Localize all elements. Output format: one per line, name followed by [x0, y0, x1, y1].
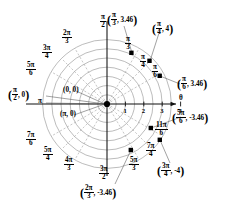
point-marker-origin[interactable]	[104, 101, 110, 107]
angle-label-5pi-over-3: 5π3	[129, 157, 139, 173]
angle-label-5pi-over-4: 5π4	[43, 147, 53, 163]
point-marker-pi-over-4[interactable]	[147, 59, 151, 63]
origin-label-zero: (0, 0)	[63, 87, 79, 94]
point-label-3pi-over-4: (3π4, -4)	[157, 163, 184, 179]
point-marker-2pi-over-3[interactable]	[129, 148, 133, 152]
theta-axis-arrowhead	[171, 102, 177, 106]
angle-label-7pi-over-4: 7π4	[146, 143, 156, 159]
angle-label-7pi-over-6: 7π6	[26, 132, 36, 148]
point-marker-pi-over-6[interactable]	[158, 74, 162, 78]
origin-label-pi: (π, 0)	[60, 111, 76, 118]
spoke-3pi-over-4	[62, 59, 108, 105]
angle-label-3pi-over-4: 3π4	[42, 45, 52, 61]
polar-chart: π2 2π3 3π4 5π6 π 7π6 5π4 4π3 3π2 5π3 7π4…	[0, 0, 225, 214]
angle-label-pi-over-4: π4	[140, 54, 146, 70]
angle-label-pi-over-6: π6	[152, 64, 158, 80]
point-label-5pi-over-6: (5π6, -3.46)	[172, 110, 208, 126]
radial-tick-label-1: 1	[123, 108, 126, 115]
radial-tick-label-3: 3	[160, 108, 163, 115]
point-label-pi-over-3: (π3, 3.46)	[107, 12, 137, 28]
angle-label-5pi-over-6: 5π6	[26, 62, 36, 78]
point-label-pi-over-6: (π6, 3.46)	[177, 76, 207, 92]
point-marker-5pi-over-6[interactable]	[149, 126, 153, 130]
angle-label-pi-over-2: π2	[100, 14, 106, 30]
point-label-pi-over-2-origin: (π2, 0)	[8, 87, 29, 103]
angle-label-4pi-over-3: 4π3	[64, 157, 74, 173]
leader-pi-origin	[74, 104, 105, 115]
angle-label-3pi-over-2: 3π2	[99, 166, 109, 182]
leader-3pi-over-4	[160, 140, 170, 163]
point-label-2pi-over-3: (2π3, -3.46)	[80, 185, 116, 201]
point-marker-3pi-over-4[interactable]	[158, 138, 162, 142]
theta-axis-label: θ	[179, 95, 183, 102]
point-label-pi-over-4: (π4, 4)	[152, 21, 173, 37]
polar-grid-svg	[0, 0, 225, 214]
radial-tick-label-2: 2	[142, 108, 145, 115]
angle-label-2pi-over-3: 2π3	[62, 30, 72, 46]
angle-label-pi-over-3: π3	[125, 36, 131, 52]
angle-label-pi: π	[38, 98, 42, 105]
angle-label-11pi-over-6: 11π6	[155, 122, 168, 138]
